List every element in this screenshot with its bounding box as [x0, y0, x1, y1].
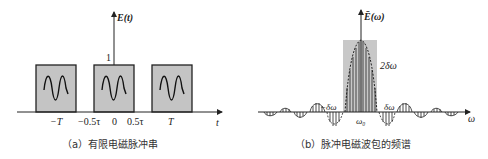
- t-label: t: [216, 117, 219, 128]
- omega-label: ω: [468, 113, 475, 124]
- pulse-box-zero: [94, 65, 134, 112]
- e-t-label: E(t): [116, 12, 133, 24]
- e-omega-label: Ē(ω): [363, 11, 385, 23]
- two-delta-omega-label: 2δω: [380, 60, 397, 71]
- tick-minus-T: −T: [50, 116, 64, 127]
- tick-half-tau: 0.5τ: [127, 116, 144, 127]
- caption-a: （a）有限电磁脉冲串: [62, 138, 158, 150]
- delta-omega-label: δω: [384, 102, 395, 112]
- caption-b: （b）脉冲电磁波包的频谱: [295, 138, 411, 150]
- tick-T: T: [168, 116, 175, 127]
- minus-delta-omega-label: −δω: [320, 102, 337, 112]
- tick-minus-half-tau: −0.5τ: [78, 116, 100, 127]
- panel-b-frequency-spectrum: Ē(ω) 2δω −δω δω ω₀ ω （b）脉冲电磁波包的频谱: [258, 10, 475, 150]
- figure: E(t) 1 t −T −0.5τ 0 0.5τ T （a）有限电磁脉冲串: [0, 0, 488, 159]
- omega-zero-label: ω₀: [356, 116, 365, 126]
- pulse-box-plus-T: [152, 65, 192, 112]
- tick-zero: 0: [112, 116, 117, 127]
- amplitude-label: 1: [106, 52, 111, 63]
- pulse-box-minus-T: [36, 65, 76, 112]
- panel-a-time-domain: E(t) 1 t −T −0.5τ 0 0.5τ T （a）有限电磁脉冲串: [17, 12, 222, 150]
